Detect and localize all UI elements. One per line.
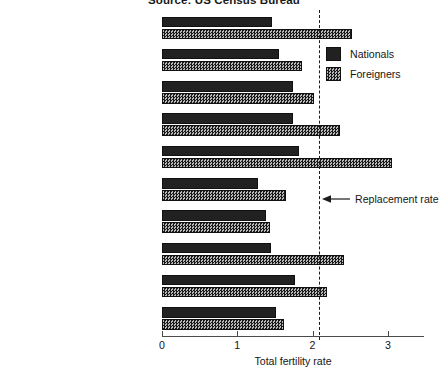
bar-nationals: [162, 113, 293, 124]
bar-foreigners: [162, 29, 352, 40]
chart-row: Luxembourg (1986): [162, 208, 424, 240]
bar-foreigners: [162, 190, 286, 201]
bar-foreigners: [162, 158, 392, 169]
chart-row: France (1985): [162, 143, 424, 175]
bar-foreigners: [162, 287, 327, 298]
bar-nationals: [162, 178, 258, 189]
bar-foreigners: [162, 319, 284, 330]
x-tick: [237, 331, 238, 337]
bar-foreigners: [162, 125, 340, 136]
chart-row: Netherlands (1985): [162, 240, 424, 272]
legend-swatch-foreigners-icon: [326, 67, 341, 81]
chart-legend: Nationals Foreigners: [326, 44, 401, 84]
chart-row: England and Wales (1986): [162, 111, 424, 143]
legend-swatch-nationals-icon: [326, 47, 341, 61]
replacement-rate-line: [319, 10, 320, 340]
bar-nationals: [162, 81, 293, 92]
bar-nationals: [162, 17, 272, 28]
legend-label-nationals: Nationals: [350, 48, 394, 60]
bar-foreigners: [162, 222, 270, 233]
chart-row: Austria (1986): [162, 14, 424, 46]
x-tick: [313, 331, 314, 337]
bar-foreigners: [162, 61, 302, 72]
chart-row: Sweden (1986): [162, 272, 424, 304]
replacement-rate-label: Replacement rate: [355, 193, 439, 205]
x-tick-label: 0: [147, 339, 177, 351]
legend-entry-foreigners: Foreigners: [326, 64, 401, 84]
x-tick: [162, 331, 163, 337]
bar-foreigners: [162, 255, 344, 266]
fertility-rate-bar-chart: Source: US Census Bureau Austria (1986)B…: [0, 0, 448, 379]
x-tick-label: 3: [373, 339, 403, 351]
x-tick-label: 1: [222, 339, 252, 351]
bar-nationals: [162, 49, 279, 60]
replacement-rate-annotation: Replacement rate: [322, 193, 439, 205]
legend-label-foreigners: Foreigners: [350, 68, 401, 80]
x-tick: [388, 331, 389, 337]
bar-nationals: [162, 243, 271, 254]
left-arrow-icon: [322, 194, 350, 204]
bar-foreigners: [162, 93, 314, 104]
x-axis-line: [162, 336, 424, 337]
chart-row: Switzerland (1986): [162, 305, 424, 337]
bar-nationals: [162, 146, 299, 157]
legend-entry-nationals: Nationals: [326, 44, 401, 64]
x-axis-title: Total fertility rate: [162, 355, 424, 367]
bar-nationals: [162, 210, 266, 221]
x-tick-label: 2: [298, 339, 328, 351]
bar-nationals: [162, 307, 276, 318]
bar-nationals: [162, 275, 295, 286]
chart-title: Source: US Census Bureau: [0, 0, 448, 6]
